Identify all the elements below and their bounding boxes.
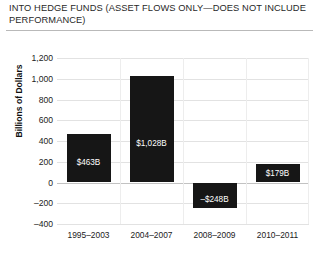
y-tick-label: 1,200 — [7, 54, 53, 63]
chart-title: INTO HEDGE FUNDS (ASSET FLOWS ONLY—DOES … — [9, 2, 309, 27]
bar-value-label: $1,028B — [121, 140, 183, 148]
x-axis-tick-labels: 1995–20032004–20072008–20092010–2011 — [57, 231, 309, 245]
y-tick-label: –200 — [7, 199, 53, 208]
x-tick-label: 2010–2011 — [246, 231, 309, 239]
x-tick-label: 2008–2009 — [183, 231, 246, 239]
y-tick-label: 1,000 — [7, 74, 53, 83]
bar-value-label: $179B — [247, 170, 309, 178]
gridline-y--400 — [57, 224, 309, 225]
y-tick-label: 400 — [7, 137, 53, 146]
bar-value-label: –$248B — [184, 196, 246, 204]
bar — [130, 76, 174, 183]
title-divider-rule — [6, 30, 313, 31]
y-tick-label: 0 — [7, 178, 53, 187]
x-tick-label: 1995–2003 — [57, 231, 120, 239]
y-tick-label: 800 — [7, 95, 53, 104]
bar-chart-figure: INTO HEDGE FUNDS (ASSET FLOWS ONLY—DOES … — [0, 0, 319, 253]
plot-area: $463B$1,028B–$248B$179B — [57, 58, 309, 224]
y-tick-label: 600 — [7, 116, 53, 125]
y-tick-label: 200 — [7, 157, 53, 166]
gridline-x-4 — [308, 58, 309, 224]
y-axis-tick-labels: 1,2001,0008006004002000–200–400 — [3, 58, 53, 224]
gridline-x-3 — [246, 58, 247, 224]
y-tick-label: –400 — [7, 220, 53, 229]
bar-value-label: $463B — [58, 159, 120, 167]
x-tick-label: 2004–2007 — [120, 231, 183, 239]
